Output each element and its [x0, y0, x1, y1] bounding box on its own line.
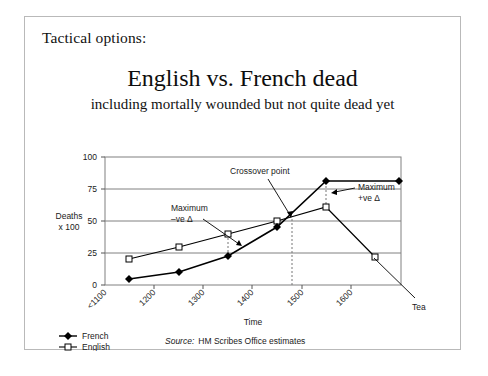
chart-legend: French English — [59, 331, 110, 351]
eyebrow-text: Tactical options: — [42, 29, 146, 47]
legend-label-french: French — [82, 331, 109, 341]
annotation-crossover-label: Crossover point — [230, 166, 290, 176]
chart-svg: 0 25 50 75 100 Deaths x 100 <1100 1200 1… — [25, 122, 462, 351]
source-text: HM Scribes Office estimates — [198, 336, 305, 346]
legend-label-english: English — [82, 342, 110, 351]
xtick-label-4: 1400 — [235, 287, 256, 308]
annotation-max-neg-line2: –ve Δ — [171, 214, 193, 224]
annotation-max-pos-line2: +ve Δ — [358, 193, 380, 203]
y-axis-label-line1: Deaths — [56, 211, 83, 221]
xtick-label-1: <1100 — [85, 287, 109, 311]
ytick-label-75: 75 — [88, 184, 98, 194]
ytick-label-100: 100 — [83, 152, 97, 162]
ytick-label-0: 0 — [92, 280, 97, 290]
xtick-label-5: 1500 — [285, 287, 306, 308]
ytick-label-25: 25 — [88, 248, 98, 258]
slide: Tactical options: English vs. French dea… — [24, 16, 461, 350]
xtick-label-2: 1200 — [137, 287, 158, 308]
annotation-max-neg-line1: Maximum — [171, 203, 208, 213]
source-note: Source:HM Scribes Office estimates — [165, 336, 305, 346]
legend-marker-french-icon — [64, 332, 72, 340]
page-subtitle: including mortally wounded but not quite… — [25, 96, 460, 113]
legend-marker-english-icon — [65, 344, 71, 350]
annotation-max-pos-line1: Maximum — [358, 182, 395, 192]
xtick-label-3: 1300 — [186, 287, 207, 308]
ytick-label-50: 50 — [88, 216, 98, 226]
x-axis-label: Time — [244, 317, 263, 327]
page-title: English vs. French dead — [25, 65, 460, 92]
xtick-label-6: 1600 — [334, 287, 355, 308]
annotation-tea-label: Tea — [412, 302, 426, 312]
source-prefix: Source: — [165, 336, 195, 346]
y-axis-label-line2: x 100 — [59, 222, 80, 232]
chart-figure: 0 25 50 75 100 Deaths x 100 <1100 1200 1… — [25, 122, 462, 351]
